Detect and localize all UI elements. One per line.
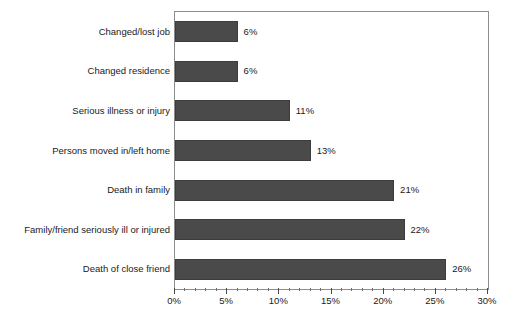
bar	[175, 140, 311, 161]
x-tick-minor	[216, 288, 217, 291]
category-label: Family/friend seriously ill or injured	[0, 225, 170, 235]
bar-row: 21%	[175, 180, 488, 201]
x-tick-label: 15%	[321, 296, 340, 306]
category-label: Serious illness or injury	[0, 106, 170, 116]
category-slot: Family/friend seriously ill or injured	[0, 219, 170, 240]
bar	[175, 180, 394, 201]
x-tick-minor	[205, 288, 206, 291]
bar	[175, 219, 405, 240]
category-slot: Changed residence	[0, 61, 170, 82]
bar-row: 11%	[175, 100, 488, 121]
bar	[175, 21, 238, 42]
x-tick-minor	[362, 288, 363, 291]
category-slot: Death of close friend	[0, 259, 170, 280]
x-tick-minor	[257, 288, 258, 291]
category-slot: Serious illness or injury	[0, 100, 170, 121]
bar-series: 6% 6% 11% 13% 21% 22% 26%	[175, 12, 488, 289]
x-tick-minor	[414, 288, 415, 291]
category-label: Changed residence	[0, 67, 170, 77]
x-tick-minor	[289, 288, 290, 291]
x-axis: 0%5%10%15%20%25%30%	[174, 288, 488, 323]
bar-value-label: 22%	[411, 225, 430, 235]
x-tick-label: 25%	[425, 296, 444, 306]
bar-value-label: 11%	[296, 106, 314, 116]
category-label: Death of close friend	[0, 264, 170, 274]
x-tick-minor	[184, 288, 185, 291]
x-tick-major	[487, 288, 488, 294]
bar-value-label: 6%	[244, 67, 258, 77]
x-tick-label: 0%	[167, 296, 181, 306]
bar-row: 6%	[175, 61, 488, 82]
x-tick-minor	[351, 288, 352, 291]
x-tick-major	[226, 288, 227, 294]
x-tick-label: 5%	[219, 296, 233, 306]
bar	[175, 61, 238, 82]
bar	[175, 259, 446, 280]
x-tick-minor	[424, 288, 425, 291]
category-label: Death in family	[0, 185, 170, 195]
x-tick-label: 20%	[373, 296, 392, 306]
x-tick-minor	[247, 288, 248, 291]
bar	[175, 100, 290, 121]
x-tick-minor	[299, 288, 300, 291]
x-tick-minor	[195, 288, 196, 291]
category-slot: Death in family	[0, 180, 170, 201]
bar-row: 6%	[175, 21, 488, 42]
x-tick-major	[331, 288, 332, 294]
x-tick-minor	[310, 288, 311, 291]
bar-value-label: 13%	[317, 146, 336, 156]
horizontal-bar-chart: Changed/lost job Changed residence Serio…	[0, 0, 506, 323]
x-tick-label: 10%	[269, 296, 288, 306]
x-tick-minor	[268, 288, 269, 291]
bar-value-label: 6%	[244, 27, 258, 37]
x-tick-minor	[404, 288, 405, 291]
category-slot: Persons moved in/left home	[0, 140, 170, 161]
x-tick-minor	[456, 288, 457, 291]
x-tick-minor	[372, 288, 373, 291]
category-label: Persons moved in/left home	[0, 146, 170, 156]
x-tick-major	[383, 288, 384, 294]
x-tick-major	[435, 288, 436, 294]
x-tick-minor	[477, 288, 478, 291]
x-tick-major	[278, 288, 279, 294]
x-tick-label: 30%	[477, 296, 496, 306]
x-tick-minor	[237, 288, 238, 291]
category-slot: Changed/lost job	[0, 21, 170, 42]
bar-value-label: 21%	[400, 185, 419, 195]
category-label: Changed/lost job	[0, 27, 170, 37]
category-axis-labels: Changed/lost job Changed residence Serio…	[0, 12, 170, 289]
x-tick-minor	[320, 288, 321, 291]
x-tick-minor	[341, 288, 342, 291]
bar-row: 22%	[175, 219, 488, 240]
x-tick-major	[174, 288, 175, 294]
x-tick-minor	[393, 288, 394, 291]
x-tick-minor	[445, 288, 446, 291]
x-tick-minor	[466, 288, 467, 291]
bar-row: 26%	[175, 259, 488, 280]
bar-row: 13%	[175, 140, 488, 161]
bar-value-label: 26%	[452, 264, 471, 274]
